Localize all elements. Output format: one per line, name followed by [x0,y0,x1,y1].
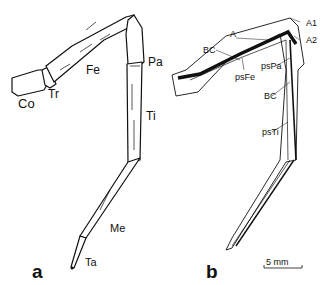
label-tr: Tr [48,88,59,100]
label-psfe: psFe [235,73,255,82]
figure: Co Tr Fe Pa Ti Me Ta a A A1 A2 BC psFe p… [0,0,323,285]
label-fe: Fe [86,64,100,76]
label-pspa: psPa [261,62,282,71]
panel-label-a: a [32,262,43,281]
label-a: A [230,30,236,39]
label-me: Me [110,223,125,234]
label-psti: psTi [262,128,279,137]
tibia-drawing [127,62,142,164]
leg-outline-b [172,18,304,250]
scale-bar-label: 5 mm [266,258,289,267]
label-ti: Ti [146,110,156,122]
label-bc-upper: BC [203,46,216,55]
label-bc-lower: BC [264,92,277,101]
label-a1: A1 [306,19,317,28]
label-pa: Pa [148,56,163,68]
label-a2: A2 [306,36,317,45]
leg-drawings [0,0,323,285]
label-ta: Ta [85,257,97,268]
panel-label-b: b [206,262,218,281]
label-co: Co [18,97,35,110]
